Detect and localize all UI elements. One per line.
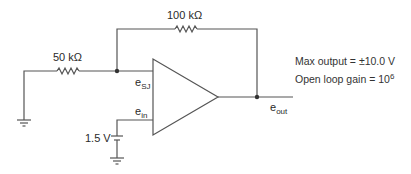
sj-junction-dot [115,69,119,73]
ein-label: ein [135,106,147,117]
max-output-note: Max output = ±10.0 V [295,56,395,67]
input-resistor-label: 50 kΩ [53,52,82,63]
op-amp-circuit [0,0,411,174]
eout-label: eout [270,102,287,113]
battery-label: 1.5 V [85,133,111,144]
esj-label: eSJ [135,77,150,88]
feedback-wire-right [197,29,257,97]
ein-wire [117,120,153,136]
feedback-resistor-label: 100 kΩ [167,10,202,21]
feedback-resistor [175,26,197,32]
input-resistor [57,68,79,74]
output-junction-dot [255,95,259,99]
feedback-wire [117,29,175,71]
op-amp-triangle [153,59,218,135]
input-wire-left [24,71,57,120]
open-loop-gain-note: Open loop gain = 106 [295,74,394,85]
